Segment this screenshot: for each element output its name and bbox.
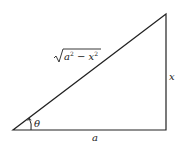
svg-text:a2 − x2: a2 − x2 xyxy=(64,50,98,62)
vertical-side-label: x xyxy=(169,71,175,82)
horizontal-side-label: a xyxy=(92,132,98,143)
right-triangle-diagram: θ a2 − x2 x a xyxy=(0,0,181,154)
angle-label: θ xyxy=(34,118,40,129)
hypotenuse-label: a2 − x2 xyxy=(54,49,101,62)
hyp-sup2: 2 xyxy=(94,50,98,57)
hyp-minus: − xyxy=(74,51,89,62)
triangle xyxy=(13,14,166,130)
